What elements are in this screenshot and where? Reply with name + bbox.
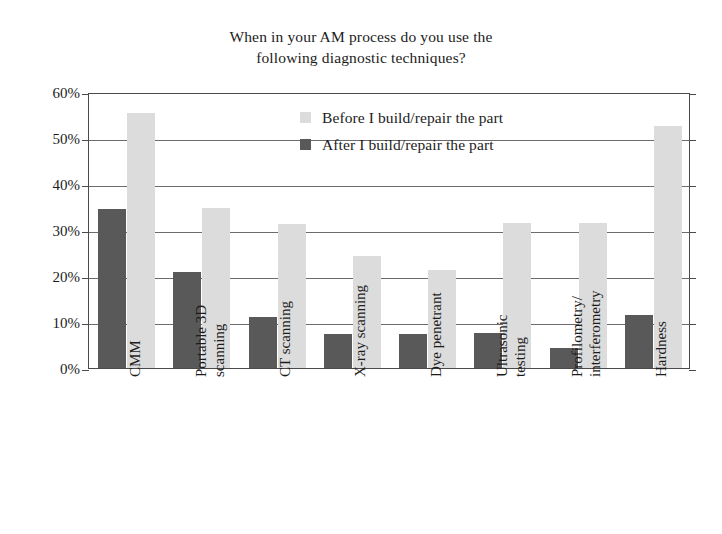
y-axis-tick-label: 10% — [6, 316, 80, 331]
chart-title-line-1: When in your AM process do you use the — [0, 26, 722, 47]
axis-tick-right — [689, 94, 696, 95]
x-axis-category-label-text: Profilometry/interferometry — [568, 290, 604, 377]
legend-label-before: Before I build/repair the part — [322, 110, 503, 126]
x-axis-category-label-text: CMM — [126, 340, 144, 377]
legend-label-after: After I build/repair the part — [322, 137, 494, 153]
y-axis-tick-label: 30% — [6, 224, 80, 239]
bar-after — [399, 334, 427, 369]
x-axis-category-label-line: X-ray scanning — [351, 285, 369, 377]
x-axis-category-label-line: Profilometry/ — [568, 290, 586, 377]
bar-after — [625, 315, 653, 368]
axis-tick-left — [82, 140, 89, 141]
axis-tick-left — [82, 278, 89, 279]
axis-tick-left — [82, 370, 89, 371]
legend-swatch-after-icon — [300, 139, 311, 150]
x-axis-category-label-text: Ultrasonictesting — [493, 315, 529, 377]
bar-after — [249, 317, 277, 368]
y-axis-tick-label: 40% — [6, 178, 80, 193]
x-axis-category-label-line: Ultrasonic — [493, 315, 511, 377]
x-axis-category-label-text: X-ray scanning — [351, 285, 369, 377]
x-axis-category-label-line: interferometry — [586, 290, 604, 377]
axis-tick-right — [689, 324, 696, 325]
x-axis-category-label-line: Portable 3D — [192, 305, 210, 377]
x-axis-category-label-line: testing — [511, 315, 529, 377]
axis-tick-left — [82, 94, 89, 95]
y-axis-tick-label: 50% — [6, 132, 80, 147]
x-axis-category-label-line: Dye penetrant — [427, 292, 445, 377]
bar-before — [127, 113, 155, 368]
bar-after — [98, 209, 126, 368]
y-axis-tick-label: 60% — [6, 86, 80, 101]
x-axis-category-label-text: Portable 3Dscanning — [192, 305, 228, 377]
legend: Before I build/repair the part After I b… — [300, 104, 503, 158]
x-axis-category-label-line: CMM — [126, 340, 144, 377]
axis-tick-right — [689, 370, 696, 371]
axis-tick-right — [689, 278, 696, 279]
axis-tick-right — [689, 140, 696, 141]
bar-chart: When in your AM process do you use the f… — [0, 0, 722, 534]
x-axis-category-label-line: CT scanning — [276, 301, 294, 377]
legend-item-before[interactable]: Before I build/repair the part — [300, 104, 503, 131]
legend-item-after[interactable]: After I build/repair the part — [300, 131, 503, 158]
axis-tick-right — [689, 186, 696, 187]
chart-title-line-2: following diagnostic techniques? — [0, 47, 722, 68]
x-axis-category-label-line: scanning — [210, 305, 228, 377]
legend-swatch-before-icon — [300, 112, 311, 123]
axis-tick-left — [82, 324, 89, 325]
x-axis-category-label-text: CT scanning — [276, 301, 294, 377]
x-axis-category-label-line: Hardness — [652, 321, 670, 377]
axis-tick-left — [82, 186, 89, 187]
y-axis-tick-label: 20% — [6, 270, 80, 285]
bar-after — [324, 334, 352, 368]
y-axis-tick-label: 0% — [6, 362, 80, 377]
x-axis-category-label-text: Hardness — [652, 321, 670, 377]
axis-tick-left — [82, 232, 89, 233]
gridline — [89, 186, 689, 187]
x-axis-category-label-text: Dye penetrant — [427, 292, 445, 377]
chart-title: When in your AM process do you use the f… — [0, 26, 722, 68]
axis-tick-right — [689, 232, 696, 233]
